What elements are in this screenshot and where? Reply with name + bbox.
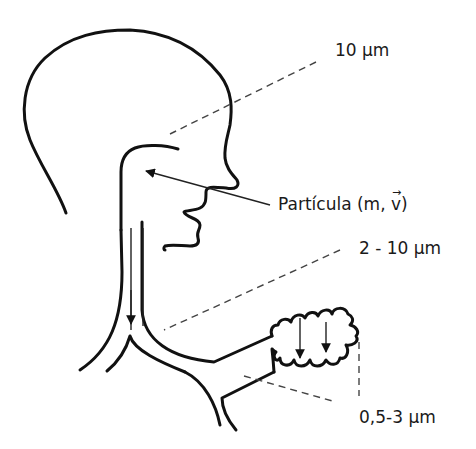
head-outline [24,30,238,250]
trachea-right-wall [142,222,272,362]
velocity-vector: →v [391,196,401,213]
leader-bronchi [164,250,340,330]
label-bronchi-size: 2 - 10 µm [359,240,441,257]
particle-inhalation-arrow [146,171,270,205]
vector-arrow-icon: → [392,187,401,198]
label-upper-airway-size: 10 µm [335,42,389,59]
lower-bronchus [185,372,220,425]
bronchiole-lower-wall [222,372,274,430]
label-alveoli-size: 0,5-3 µm [359,409,436,426]
trachea-left-wall [80,230,122,370]
particle-prefix: Partícula (m, [278,194,391,214]
leader-alveoli-lower [244,376,336,402]
alveoli-cluster [271,308,357,372]
nasal-cavity-outline [121,145,178,230]
leader-upper-airway [170,62,316,134]
respiratory-deposition-diagram [0,0,476,449]
inner-left-bronchus [107,336,185,372]
label-particle: Partícula (m, →v) [278,196,408,213]
